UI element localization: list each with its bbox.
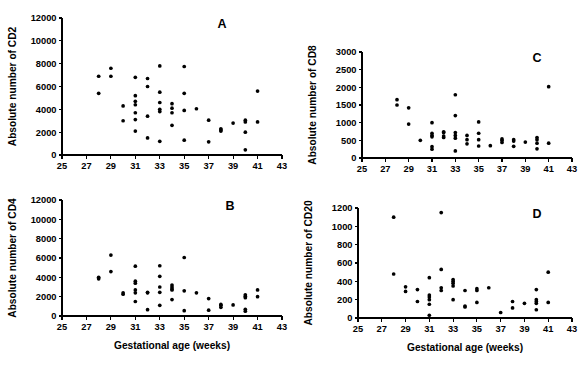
data-point — [195, 107, 199, 111]
data-point — [427, 276, 431, 280]
y-tick-label: 6000 — [36, 82, 57, 92]
x-tick-label: 25 — [353, 324, 363, 334]
data-point — [416, 300, 420, 304]
y-tick-label: 1000 — [336, 118, 357, 128]
data-point — [182, 309, 186, 313]
data-point — [207, 118, 211, 122]
x-tick-label: 39 — [519, 324, 529, 334]
y-tick-label: 10000 — [31, 36, 57, 46]
data-point — [418, 138, 422, 142]
y-axis-title: Absolute number of CD4 — [7, 198, 18, 318]
data-point — [427, 298, 431, 302]
x-tick-label: 27 — [81, 161, 91, 171]
data-point — [182, 65, 186, 69]
data-point — [523, 301, 527, 305]
x-tick-label: 31 — [130, 161, 140, 171]
data-point — [231, 303, 235, 307]
data-point — [416, 288, 420, 292]
data-point — [477, 120, 481, 124]
y-axis-title: Absolute number of CD20 — [303, 200, 314, 325]
data-point — [395, 103, 399, 107]
x-tick-label: 39 — [520, 164, 530, 174]
x-tick-label: 33 — [155, 322, 165, 332]
y-tick-label: 12000 — [31, 195, 57, 205]
data-point — [488, 144, 492, 148]
y-tick-label: 2000 — [36, 292, 57, 302]
scatter-plot-a: 0200040006000800010000120002527293133353… — [0, 0, 290, 188]
data-point — [465, 142, 469, 146]
data-point — [158, 64, 162, 68]
x-tick-label: 31 — [130, 322, 140, 332]
y-tick-label: 3000 — [336, 47, 357, 57]
data-point — [146, 308, 150, 312]
data-point — [511, 306, 515, 310]
y-tick-label: 4000 — [36, 273, 57, 283]
panel-a: 0200040006000800010000120002527293133353… — [0, 0, 290, 188]
y-tick-label: 2000 — [36, 128, 57, 138]
data-point — [195, 291, 199, 295]
data-point — [523, 140, 527, 144]
x-tick-label: 41 — [543, 324, 553, 334]
data-point — [512, 139, 516, 143]
data-point — [430, 135, 434, 139]
data-point — [512, 144, 516, 148]
data-point — [207, 308, 211, 312]
data-point — [547, 141, 551, 145]
panel-b: 0200040006000800010000120002527293133353… — [0, 188, 290, 376]
data-point — [158, 139, 162, 143]
data-point — [158, 90, 162, 94]
data-point — [463, 305, 467, 309]
data-point — [109, 66, 113, 70]
data-point — [170, 288, 174, 292]
data-point — [207, 297, 211, 301]
scatter-plot-d: 0200400600800100012002527293133353739414… — [290, 188, 580, 376]
data-point — [535, 147, 539, 151]
panel-letter-a: A — [217, 17, 226, 31]
data-point — [231, 121, 235, 125]
data-point — [465, 138, 469, 142]
x-tick-label: 35 — [473, 164, 483, 174]
data-point — [133, 111, 137, 115]
panel-letter-b: B — [225, 199, 234, 213]
y-tick-label: 2500 — [336, 65, 357, 75]
data-point — [256, 288, 260, 292]
x-tick-label: 43 — [277, 161, 287, 171]
data-point — [182, 256, 186, 260]
data-point — [453, 136, 457, 140]
x-tick-label: 37 — [495, 324, 505, 334]
data-point — [146, 114, 150, 118]
data-point — [407, 122, 411, 126]
data-point — [546, 301, 550, 305]
panel-c: 0500100015002000250030002527293133353739… — [290, 0, 580, 188]
data-point — [465, 134, 469, 138]
data-point — [133, 76, 137, 80]
y-tick-label: 800 — [337, 240, 353, 250]
x-tick-label: 37 — [203, 322, 213, 332]
data-point — [182, 138, 186, 142]
data-point — [535, 141, 539, 145]
data-point — [133, 281, 137, 285]
data-point — [463, 289, 467, 293]
y-tick-label: 8000 — [36, 59, 57, 69]
x-tick-label: 39 — [228, 322, 238, 332]
y-tick-label: 6000 — [36, 253, 57, 263]
data-point — [475, 301, 479, 305]
data-point-group — [392, 211, 550, 317]
x-tick-label: 27 — [380, 164, 390, 174]
data-point — [170, 123, 174, 127]
data-point — [133, 129, 137, 133]
x-axis-title: Gestational age (weeks) — [407, 342, 523, 353]
x-tick-label: 35 — [179, 322, 189, 332]
x-tick-label: 31 — [427, 164, 437, 174]
data-point — [97, 277, 101, 281]
data-point — [256, 295, 260, 299]
y-tick-label: 200 — [337, 295, 353, 305]
data-point — [170, 298, 174, 302]
x-tick-label: 39 — [228, 161, 238, 171]
x-tick-label: 27 — [81, 322, 91, 332]
data-point — [121, 292, 125, 296]
data-point — [133, 291, 137, 295]
y-axis-title: Absolute number of CD8 — [307, 45, 318, 165]
x-tick-label: 41 — [252, 161, 262, 171]
data-point — [146, 291, 150, 295]
